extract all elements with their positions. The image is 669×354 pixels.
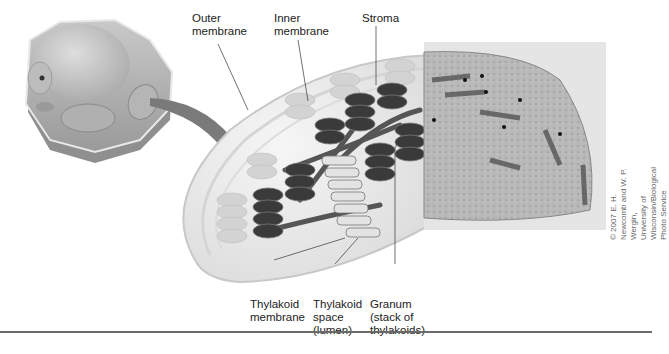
bottom-rule [0, 331, 652, 333]
plant-cell [26, 16, 172, 163]
label-thylakoid-membrane: Thylakoid membrane [250, 298, 305, 324]
chloroplast [183, 55, 430, 282]
label-inner-membrane: Inner membrane [274, 12, 329, 38]
label-outer-membrane: Outer membrane [192, 12, 247, 38]
photo-credit: © 2007 E. H. Newcomb and W. P. Wergin, U… [609, 167, 669, 240]
electron-micrograph [424, 42, 606, 230]
label-stroma: Stroma [362, 12, 399, 25]
